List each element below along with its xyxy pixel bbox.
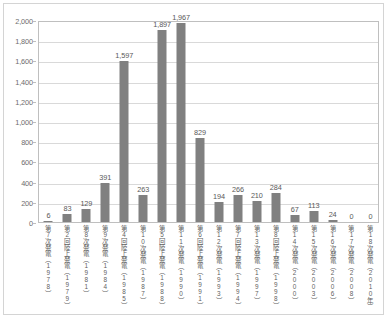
bar[interactable]: [252, 201, 261, 222]
bar-value-label: 113: [308, 201, 319, 210]
bar-slot[interactable]: 284: [266, 22, 285, 222]
x-axis-category-label: 第15次発電（2003）: [309, 225, 316, 303]
chart-frame: 2,0001,8001,6001,4001,2001,0008006004002…: [3, 3, 384, 315]
bar-value-label: 129: [80, 199, 92, 208]
bar[interactable]: [63, 214, 72, 222]
bar-slot[interactable]: 194: [210, 22, 229, 222]
x-axis-category-label: 第4回陸上発電（1985）: [120, 225, 127, 308]
y-axis-tick-mark: [33, 61, 36, 62]
x-axis-category-label: 第11次発電（1990）: [177, 225, 184, 303]
x-axis-category-label: 第12次発電（1993）: [215, 225, 222, 303]
bar-value-label: 1,967: [172, 13, 190, 22]
y-axis-tick-mark: [33, 21, 36, 22]
bar[interactable]: [158, 30, 167, 222]
bar-slot[interactable]: 129: [77, 22, 96, 222]
y-axis: 2,0001,8001,6001,4001,2001,0008006004002…: [4, 21, 36, 223]
x-axis-category-label: 第9次発電（1984）: [101, 225, 108, 296]
bar[interactable]: [214, 202, 223, 222]
y-axis-tick-label: 800: [21, 138, 33, 147]
bar[interactable]: [271, 193, 280, 222]
bar-value-label: 263: [137, 185, 149, 194]
bar-slot[interactable]: 0: [342, 22, 361, 222]
bar-slot[interactable]: 391: [96, 22, 115, 222]
bar-value-label: 0: [350, 212, 354, 221]
y-axis-tick-label: 2,000: [15, 17, 33, 26]
y-axis-tick-mark: [33, 162, 36, 163]
bar-value-label: 6: [46, 211, 50, 220]
y-axis-tick-mark: [33, 41, 36, 42]
x-axis-category-label: 第8次発電（1981）: [82, 225, 89, 296]
y-axis-tick-mark: [33, 142, 36, 143]
bar[interactable]: [44, 221, 53, 222]
bar-slot[interactable]: 263: [134, 22, 153, 222]
y-axis-tick-label: 1,800: [15, 37, 33, 46]
bar[interactable]: [196, 138, 205, 222]
x-axis-category-label: 第7回陸上発電（1994）: [234, 225, 241, 308]
bar[interactable]: [309, 211, 318, 222]
bar-value-label: 0: [369, 212, 373, 221]
x-axis-category-label: 第10次発電（1987）: [139, 225, 146, 303]
bar-slot[interactable]: 266: [228, 22, 247, 222]
bar-value-label: 24: [329, 210, 337, 219]
bar-slot[interactable]: 24: [323, 22, 342, 222]
bar-value-label: 284: [270, 183, 282, 192]
plot-wrapper: 6831293911,5972631,8971,9678291942662102…: [38, 21, 379, 223]
x-axis-category-label: 第8回陸上発電（1998）: [271, 225, 278, 308]
x-axis-category-label: 第17次発電（2008）: [347, 225, 354, 303]
x-axis-category-label: 第18次発電（2010年）: [366, 225, 373, 309]
bar[interactable]: [328, 220, 337, 222]
bar-slot[interactable]: 1,967: [172, 22, 191, 222]
y-axis-tick-mark: [33, 102, 36, 103]
y-axis-tick-mark: [33, 82, 36, 83]
y-axis-tick-label: 600: [21, 158, 33, 167]
y-axis-tick-label: 400: [21, 178, 33, 187]
bar-slot[interactable]: 829: [191, 22, 210, 222]
bar-value-label: 829: [194, 128, 206, 137]
bar-value-label: 210: [251, 191, 263, 200]
bar-value-label: 83: [63, 204, 71, 213]
x-axis-category-label: 第2回陸上発電（1979）: [63, 225, 70, 308]
y-axis-tick-label: 1,600: [15, 57, 33, 66]
bar[interactable]: [82, 209, 91, 222]
bar-value-label: 194: [213, 192, 225, 201]
bar-slot[interactable]: 113: [304, 22, 323, 222]
bar-value-label: 391: [99, 173, 111, 182]
bar-slot[interactable]: 0: [361, 22, 380, 222]
bar-slot[interactable]: 1,597: [115, 22, 134, 222]
y-axis-tick-mark: [33, 122, 36, 123]
y-axis-tick-label: 1,000: [15, 118, 33, 127]
bar[interactable]: [139, 195, 148, 222]
y-axis-tick-mark: [33, 223, 36, 224]
bars-layer: 6831293911,5972631,8971,9678291942662102…: [39, 22, 378, 222]
y-axis-tick-mark: [33, 203, 36, 204]
x-axis-category-label: 第16次発電（2006）: [328, 225, 335, 303]
bar-slot[interactable]: 210: [247, 22, 266, 222]
plot-area: 6831293911,5972631,8971,9678291942662102…: [38, 21, 379, 223]
x-axis-category-label: 第6回陸上発電（1991）: [196, 225, 203, 308]
bar-value-label: 1,597: [115, 51, 133, 60]
x-axis-category-label: 第7次発電（1978）: [44, 225, 51, 296]
y-axis-tick-mark: [33, 183, 36, 184]
bar-value-label: 67: [291, 205, 299, 214]
y-axis-tick-label: 200: [21, 198, 33, 207]
bar[interactable]: [233, 195, 242, 222]
x-axis-category-label: 第14次発電（2000）: [290, 225, 297, 303]
x-axis-labels: 第7次発電（1978）第2回陸上発電（1979）第8次発電（1981）第9次発電…: [38, 224, 379, 314]
x-axis-category-label: 第13次発電（1997）: [252, 225, 259, 303]
x-axis-category-label: 第5回陸上発電（1988）: [158, 225, 165, 308]
bar[interactable]: [120, 61, 129, 222]
bar[interactable]: [290, 215, 299, 222]
bar-slot[interactable]: 1,897: [153, 22, 172, 222]
bar-slot[interactable]: 67: [285, 22, 304, 222]
bar-value-label: 266: [232, 185, 244, 194]
bar-slot[interactable]: 83: [58, 22, 77, 222]
y-axis-tick-label: 1,200: [15, 97, 33, 106]
bar[interactable]: [177, 23, 186, 222]
bar-slot[interactable]: 6: [39, 22, 58, 222]
y-axis-tick-label: 1,400: [15, 77, 33, 86]
bar[interactable]: [101, 183, 110, 222]
bar-value-label: 1,897: [153, 20, 171, 29]
